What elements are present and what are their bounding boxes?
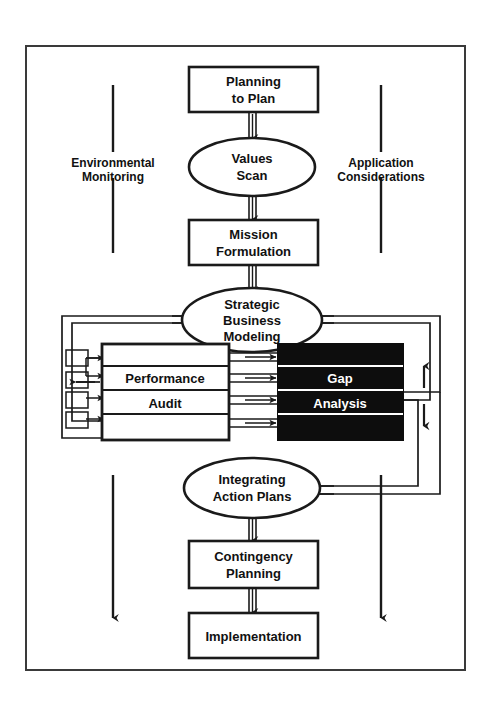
values-scan-line2: Scan [236, 168, 267, 183]
performance-audit-line2: Audit [148, 396, 182, 411]
mission-formulation-line2: Formulation [216, 244, 291, 259]
label-application-considerations: Application Considerations [337, 156, 425, 184]
planning-to-plan-line2: to Plan [232, 91, 275, 106]
contingency-planning-line2: Planning [226, 566, 281, 581]
application-considerations-line1: Application [348, 156, 413, 170]
node-implementation[interactable]: Implementation [189, 613, 318, 658]
iap-line1: Integrating [218, 472, 285, 487]
planning-to-plan-line1: Planning [226, 74, 281, 89]
environmental-monitoring-line1: Environmental [71, 156, 154, 170]
application-considerations-line2: Considerations [337, 170, 425, 184]
mission-formulation-line1: Mission [229, 227, 277, 242]
contingency-planning-line1: Contingency [214, 549, 293, 564]
node-gap-analysis[interactable]: Gap Analysis [278, 344, 403, 440]
node-strategic-business-modeling[interactable]: Strategic Business Modeling [182, 288, 322, 352]
sbm-line1: Strategic [224, 297, 280, 312]
gap-analysis-line2: Analysis [313, 396, 366, 411]
node-values-scan[interactable]: Values Scan [189, 138, 315, 196]
node-planning-to-plan[interactable]: Planning to Plan [189, 67, 318, 112]
strategic-planning-flowchart: Planning to Plan Values Scan Mission For… [0, 0, 487, 711]
node-mission-formulation[interactable]: Mission Formulation [189, 220, 318, 265]
values-scan-line1: Values [231, 151, 272, 166]
gap-analysis-line1: Gap [327, 371, 352, 386]
sbm-line3: Modeling [223, 329, 280, 344]
sbm-line2: Business [223, 313, 281, 328]
iap-line2: Action Plans [213, 489, 292, 504]
implementation-label: Implementation [205, 629, 301, 644]
node-contingency-planning[interactable]: Contingency Planning [189, 541, 318, 588]
environmental-monitoring-line2: Monitoring [82, 170, 144, 184]
node-performance-audit[interactable]: Performance Audit [102, 344, 229, 440]
node-integrating-action-plans[interactable]: Integrating Action Plans [184, 458, 320, 518]
performance-audit-line1: Performance [125, 371, 204, 386]
label-environmental-monitoring: Environmental Monitoring [71, 156, 154, 184]
diagram-canvas: Planning to Plan Values Scan Mission For… [0, 0, 487, 711]
